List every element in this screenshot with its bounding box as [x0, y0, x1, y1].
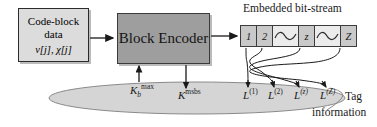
l-2-label: L(2) [268, 88, 283, 101]
l-Z-sup: (Z) [326, 87, 335, 96]
code-block-label-line2: data [44, 28, 62, 40]
bitstream-cell-label: 2 [262, 31, 267, 42]
l-z-label: L(z) [294, 88, 308, 101]
kb-max-sup: max [141, 82, 154, 91]
bitstream-cell: z [298, 25, 315, 47]
bitstream-cell-label: z [304, 31, 308, 42]
bitstream-cell-ellipsis [272, 25, 299, 47]
connector-cell-1 [246, 48, 248, 84]
l-2-sup: (2) [274, 87, 283, 96]
bitstream-cell-label: Z [346, 31, 352, 42]
bitstream-cell: 2 [256, 25, 273, 47]
bitstream-cell: 1 [240, 25, 257, 47]
k-msbs-sup: msbs [185, 87, 200, 96]
wave-icon [316, 29, 340, 43]
code-block-label-line3: v[j], χ[j] [35, 44, 72, 55]
embedded-bitstream-row: 1 2 z Z [240, 25, 356, 47]
information-label: information [312, 106, 366, 118]
l-1-label: L(1) [243, 88, 258, 101]
code-block-label-line1: Code-block [28, 15, 79, 27]
k-msbs-label: Kmsbs [178, 88, 201, 101]
block-encoder-label: Block Encoder [119, 30, 209, 47]
kb-max-sub: b [137, 90, 141, 99]
tag-label: Tag [345, 90, 362, 102]
l-Z-label: L(Z) [320, 88, 335, 101]
wave-icon [274, 29, 298, 43]
l-1-sup: (1) [249, 87, 258, 96]
code-block-data-box: Code-block data v[j], χ[j] [18, 8, 89, 62]
kb-max-label: Kbmax [130, 83, 154, 99]
embedded-bitstream-title: Embedded bit-stream [243, 2, 342, 14]
connector-cell-2 [250, 48, 274, 84]
diagram-canvas: Code-block data v[j], χ[j] Block Encoder… [0, 0, 377, 127]
bitstream-cell-label: 1 [246, 31, 251, 42]
block-encoder-box: Block Encoder [117, 13, 210, 64]
bitstream-cell: Z [340, 25, 357, 47]
l-z-sup: (z) [300, 87, 308, 96]
bitstream-cell-ellipsis [314, 25, 341, 47]
